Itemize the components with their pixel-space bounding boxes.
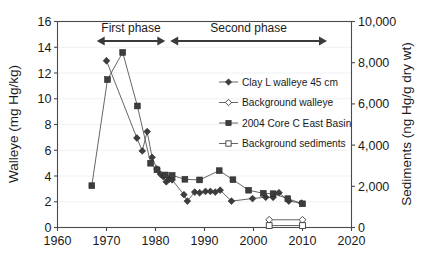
data-point-open-square (266, 223, 272, 229)
chart-legend: Clay L walleye 45 cmBackground walleye20… (219, 77, 351, 150)
y-tick-label-left: 6 (45, 144, 52, 158)
data-point-filled-square (230, 177, 236, 183)
y-tick-label-right: 10,000 (358, 15, 396, 29)
data-point-filled-diamond (144, 128, 151, 135)
legend-label: 2004 Core C East Basin (242, 118, 351, 129)
annotation-second-phase (170, 36, 327, 45)
data-point-filled-diamond (196, 189, 203, 196)
y-tick-label-right: 4,000 (358, 139, 389, 153)
phase-annotation-layer: First phaseSecond phase (97, 21, 327, 46)
data-point-filled-square (182, 176, 188, 182)
x-tick-label: 1970 (93, 234, 121, 248)
chart-gridlines (58, 22, 352, 202)
data-point-filled-square (246, 187, 252, 193)
data-point-filled-diamond (139, 147, 146, 154)
data-point-filled-diamond (249, 195, 256, 202)
data-point-filled-square (226, 120, 231, 125)
data-point-filled-square (134, 103, 140, 109)
x-tick-label: 2020 (338, 234, 366, 248)
data-point-filled-square (216, 168, 222, 174)
phase-arrow-head-left (97, 36, 105, 45)
y-tick-label-left: 4 (45, 170, 52, 184)
annotation-first-phase (97, 36, 166, 45)
data-point-filled-square (89, 183, 95, 189)
data-point-filled-square (197, 177, 203, 183)
data-point-filled-diamond (225, 79, 231, 85)
data-point-filled-square (148, 160, 154, 166)
legend-label: Background sediments (242, 138, 346, 149)
y-tick-label-left: 12 (38, 67, 52, 81)
data-point-open-diamond (266, 216, 273, 223)
data-point-open-square (300, 223, 306, 229)
y-tick-label-left: 14 (38, 41, 52, 55)
x-tick-label: 2010 (289, 234, 317, 248)
legend-label: Clay L walleye 45 cm (242, 77, 338, 88)
data-point-filled-square (300, 201, 306, 207)
series-background-walleye (266, 216, 306, 223)
data-point-filled-diamond (133, 135, 140, 142)
data-point-filled-square (270, 191, 276, 197)
y-tick-label-left: 2 (45, 195, 52, 209)
y-tick-label-right: 6,000 (358, 97, 389, 111)
y-axis-left-ticks: 0246810121416 (38, 15, 58, 235)
chart-figure: 0246810121416 02,0004,0006,0008,00010,00… (0, 0, 423, 267)
legend-label: Background walleye (242, 97, 334, 108)
legend-entry[interactable]: 2004 Core C East Basin (219, 118, 351, 129)
data-point-filled-square (162, 172, 168, 178)
phase-label: Second phase (210, 21, 287, 35)
phase-arrow-head-right (319, 36, 327, 45)
phase-arrow-head-right (157, 36, 165, 45)
data-point-filled-square (105, 77, 111, 83)
x-tick-label: 2000 (240, 234, 268, 248)
x-axis-ticks: 1960197019801990200020102020 (44, 228, 366, 248)
x-tick-label: 1980 (142, 234, 170, 248)
y-tick-label-right: 8,000 (358, 56, 389, 70)
x-tick-label: 1960 (44, 234, 72, 248)
phase-arrow-head-left (170, 36, 178, 45)
data-point-filled-square (285, 196, 291, 202)
data-point-filled-square (169, 172, 175, 178)
y-tick-label-left: 8 (45, 118, 52, 132)
y-tick-label-left: 16 (38, 15, 52, 29)
data-point-open-square (226, 141, 231, 146)
y-tick-label-left: 10 (38, 92, 52, 106)
data-point-open-diamond (225, 99, 231, 105)
data-point-filled-square (120, 50, 126, 56)
x-tick-label: 1990 (191, 234, 219, 248)
chart-canvas: 0246810121416 02,0004,0006,0008,00010,00… (0, 0, 423, 267)
y-axis-right-title: Sediments (ng Hg/g dry wt) (399, 42, 414, 206)
legend-entry[interactable]: Background sediments (219, 138, 346, 149)
legend-entry[interactable]: Clay L walleye 45 cm (219, 77, 338, 88)
y-axis-left-title: Walleye (mg Hg/kg) (6, 65, 21, 183)
y-tick-label-right: 2,000 (358, 180, 389, 194)
data-point-filled-square (260, 190, 266, 196)
data-point-filled-diamond (103, 57, 110, 64)
data-point-filled-square (154, 167, 160, 173)
phase-label: First phase (101, 21, 161, 35)
y-axis-right-ticks: 02,0004,0006,0008,00010,000 (352, 15, 397, 235)
data-point-open-diamond (299, 216, 306, 223)
